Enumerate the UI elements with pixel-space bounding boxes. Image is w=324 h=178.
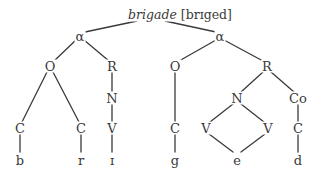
branch-title-syllable1 bbox=[85, 21, 137, 32]
branch-rhyme2-coda bbox=[271, 72, 294, 92]
consonant-slot-g: C bbox=[169, 122, 181, 135]
nucleus-node-2: N bbox=[230, 92, 243, 105]
branch-onset1-c2 bbox=[53, 72, 79, 122]
branch-syl1-onset bbox=[54, 40, 76, 61]
syllable-tree-diagram: brigade [brɪged] α O R N C C V b r ɪ α O… bbox=[0, 0, 324, 178]
consonant-slot-d: C bbox=[292, 122, 304, 135]
onset-node-1: O bbox=[44, 60, 57, 73]
branch-syl1-rhyme bbox=[84, 40, 109, 61]
consonant-slot-b: C bbox=[14, 122, 26, 135]
branch-onset1-c1 bbox=[22, 72, 47, 122]
coda-node: Co bbox=[288, 92, 308, 105]
segment-b: b bbox=[15, 154, 25, 167]
branch-syl2-rhyme bbox=[224, 40, 263, 61]
rhyme-node-2: R bbox=[261, 60, 273, 73]
branch-nucleus2-v1 bbox=[210, 104, 233, 122]
branch-rhyme2-nucleus bbox=[241, 72, 263, 92]
consonant-slot-r: C bbox=[75, 122, 87, 135]
syllable-node-1: α bbox=[75, 30, 86, 43]
tree-branches bbox=[0, 0, 324, 178]
branch-title-syllable2 bbox=[165, 21, 216, 32]
branch-nucleus2-v2 bbox=[241, 104, 264, 122]
segment-e: e bbox=[232, 154, 242, 167]
nucleus-node-1: N bbox=[105, 92, 118, 105]
vowel-slot-e1: V bbox=[200, 122, 211, 135]
segment-g: g bbox=[170, 154, 180, 167]
branch-syl2-onset bbox=[179, 40, 216, 61]
segment-r: r bbox=[77, 154, 85, 167]
onset-node-2: O bbox=[169, 60, 182, 73]
word-orthographic: brigade bbox=[128, 7, 177, 22]
vowel-slot-i: V bbox=[106, 122, 117, 135]
segment-i: ɪ bbox=[109, 154, 115, 167]
segment-d: d bbox=[293, 154, 303, 167]
branch-v2-e bbox=[241, 134, 265, 152]
word-ipa: [brɪged] bbox=[181, 7, 232, 22]
syllable-node-2: α bbox=[215, 30, 226, 43]
branch-v1-e bbox=[209, 134, 233, 152]
vowel-slot-e2: V bbox=[262, 122, 273, 135]
word-title: brigade [brɪged] bbox=[126, 7, 234, 22]
rhyme-node-1: R bbox=[106, 60, 118, 73]
